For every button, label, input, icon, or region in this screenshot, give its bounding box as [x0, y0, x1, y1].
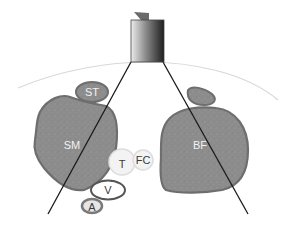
semitendinosus-muscle: ST [76, 82, 108, 102]
common-fibular-nerve: FC [133, 150, 153, 170]
tibial-nerve: T [109, 149, 135, 175]
ultrasound-probe [131, 12, 164, 62]
label-t: T [119, 158, 126, 170]
biceps-femoris-short-head-muscle [188, 87, 215, 105]
biceps-femoris-muscle: BF [161, 107, 248, 192]
label-fc: FC [136, 154, 151, 166]
vein: V [91, 181, 125, 200]
label-bf: BF [193, 139, 207, 151]
label-v: V [104, 184, 112, 196]
label-sm: SM [64, 139, 81, 151]
artery: A [82, 199, 102, 213]
diagram-canvas: ST SM BF T FC V A [0, 0, 292, 228]
label-a: A [88, 201, 96, 213]
skin-surface-line [18, 62, 278, 100]
label-st: ST [85, 86, 99, 98]
probe-cable-tab [134, 12, 149, 20]
